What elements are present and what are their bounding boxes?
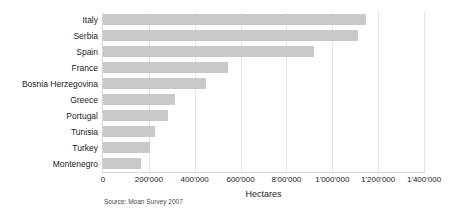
- y-axis-label-france: France: [0, 63, 98, 73]
- bar-row: [103, 76, 424, 92]
- bar-row: [103, 44, 424, 60]
- y-axis-label-greece: Greece: [0, 95, 98, 105]
- bar-chart: ItalySerbiaSpainFranceBosnia Herzegovina…: [0, 0, 461, 218]
- x-axis-tick-label: 600'000: [226, 175, 254, 184]
- x-axis-tick-label: 1'000'000: [315, 175, 349, 184]
- bar: [103, 62, 228, 73]
- bar-row: [103, 156, 424, 172]
- x-axis-tick-label: 1'400'000: [407, 175, 441, 184]
- bar-row: [103, 92, 424, 108]
- bar: [103, 126, 155, 137]
- bar: [103, 30, 358, 41]
- y-axis-label-montenegro: Montenegro: [0, 159, 98, 169]
- y-axis-label-bosnia-herzegovina: Bosnia Herzegovina: [0, 79, 98, 89]
- x-axis-tick-label: 400'000: [181, 175, 209, 184]
- x-axis-line: [103, 172, 425, 173]
- bar: [103, 78, 206, 89]
- y-axis-label-italy: Italy: [0, 15, 98, 25]
- y-axis-label-turkey: Turkey: [0, 143, 98, 153]
- bar-row: [103, 28, 424, 44]
- bar: [103, 158, 141, 169]
- x-axis-tick-label: 0: [101, 175, 105, 184]
- y-axis-category-labels: ItalySerbiaSpainFranceBosnia Herzegovina…: [0, 12, 98, 172]
- y-axis-label-tunisia: Tunisia: [0, 127, 98, 137]
- plot-area: [103, 12, 424, 172]
- y-axis-label-portugal: Portugal: [0, 111, 98, 121]
- bar: [103, 46, 314, 57]
- bar-row: [103, 108, 424, 124]
- y-axis-label-serbia: Serbia: [0, 31, 98, 41]
- bar-series: [103, 12, 424, 172]
- bar-row: [103, 60, 424, 76]
- x-axis-tick-label: 200'000: [135, 175, 163, 184]
- bar-row: [103, 124, 424, 140]
- bar: [103, 14, 366, 25]
- x-axis-tick-label: 1'200'000: [361, 175, 395, 184]
- bar: [103, 110, 168, 121]
- gridline: [424, 12, 425, 172]
- source-note: Source: Moan Survey 2007: [104, 198, 183, 205]
- bar-row: [103, 140, 424, 156]
- bar: [103, 142, 150, 153]
- y-axis-label-spain: Spain: [0, 47, 98, 57]
- x-axis-tick-labels: 0200'000400'000600'0008'00'0001'000'0001…: [103, 175, 424, 187]
- bar-row: [103, 12, 424, 28]
- x-axis-tick-label: 8'00'000: [272, 175, 302, 184]
- bar: [103, 94, 175, 105]
